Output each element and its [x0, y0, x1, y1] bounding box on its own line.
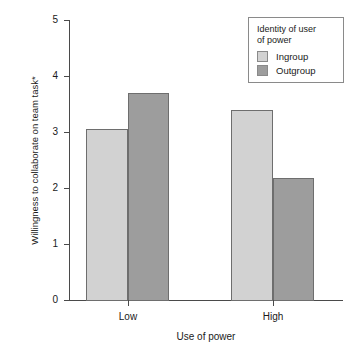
y-tick-label-5: 5 [34, 15, 58, 25]
y-tick-mark-2 [64, 188, 69, 189]
legend-item-ingroup: Ingroup [257, 51, 337, 62]
y-axis-title: Willingness to collaborate on team task* [29, 31, 40, 291]
legend-swatch-outgroup-icon [257, 65, 268, 76]
legend-title-line-1: Identity of user [257, 24, 316, 34]
legend: Identity of user of power Ingroup Outgro… [248, 17, 344, 83]
legend-label-ingroup: Ingroup [276, 51, 308, 62]
x-tick-mark-high [273, 300, 274, 306]
y-tick-mark-4 [64, 76, 69, 77]
bar-low-ingroup [86, 129, 128, 301]
bar-chart: 0 1 2 3 4 5 Low High Use of power Willin… [0, 0, 350, 351]
bar-low-outgroup [128, 93, 169, 301]
x-axis-title: Use of power [69, 331, 343, 342]
x-tick-mark-low [128, 300, 129, 306]
y-tick-mark-3 [64, 132, 69, 133]
y-axis-line [69, 20, 70, 301]
y-tick-mark-5 [64, 20, 69, 21]
x-tick-label-high: High [238, 311, 308, 322]
y-tick-label-0: 0 [34, 295, 58, 305]
y-tick-mark-1 [64, 244, 69, 245]
legend-title: Identity of user of power [257, 24, 337, 46]
bar-high-outgroup [273, 178, 314, 301]
legend-title-line-2: of power [257, 35, 292, 45]
x-tick-label-low: Low [93, 311, 163, 322]
legend-item-outgroup: Outgroup [257, 65, 337, 76]
y-tick-mark-0 [64, 300, 69, 301]
bar-high-ingroup [231, 110, 273, 301]
legend-swatch-ingroup-icon [257, 51, 268, 62]
legend-label-outgroup: Outgroup [276, 65, 316, 76]
